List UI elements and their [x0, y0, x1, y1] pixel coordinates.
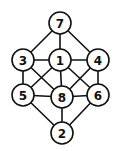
node-5: 5	[12, 84, 34, 106]
node-4: 4	[87, 49, 109, 71]
node-3: 3	[12, 49, 34, 71]
node-label: 5	[19, 89, 27, 103]
node-label: 3	[19, 54, 27, 68]
node-label: 7	[56, 17, 64, 31]
node-label: 2	[58, 127, 66, 141]
graph-diagram: 73145862	[0, 0, 117, 151]
node-label: 4	[94, 54, 102, 68]
node-label: 8	[58, 91, 66, 105]
node-8: 8	[51, 86, 73, 108]
node-7: 7	[49, 12, 71, 34]
node-6: 6	[87, 84, 109, 106]
node-label: 6	[94, 89, 102, 103]
edges	[23, 23, 98, 133]
node-label: 1	[56, 54, 64, 68]
node-2: 2	[51, 122, 73, 144]
node-1: 1	[49, 49, 71, 71]
